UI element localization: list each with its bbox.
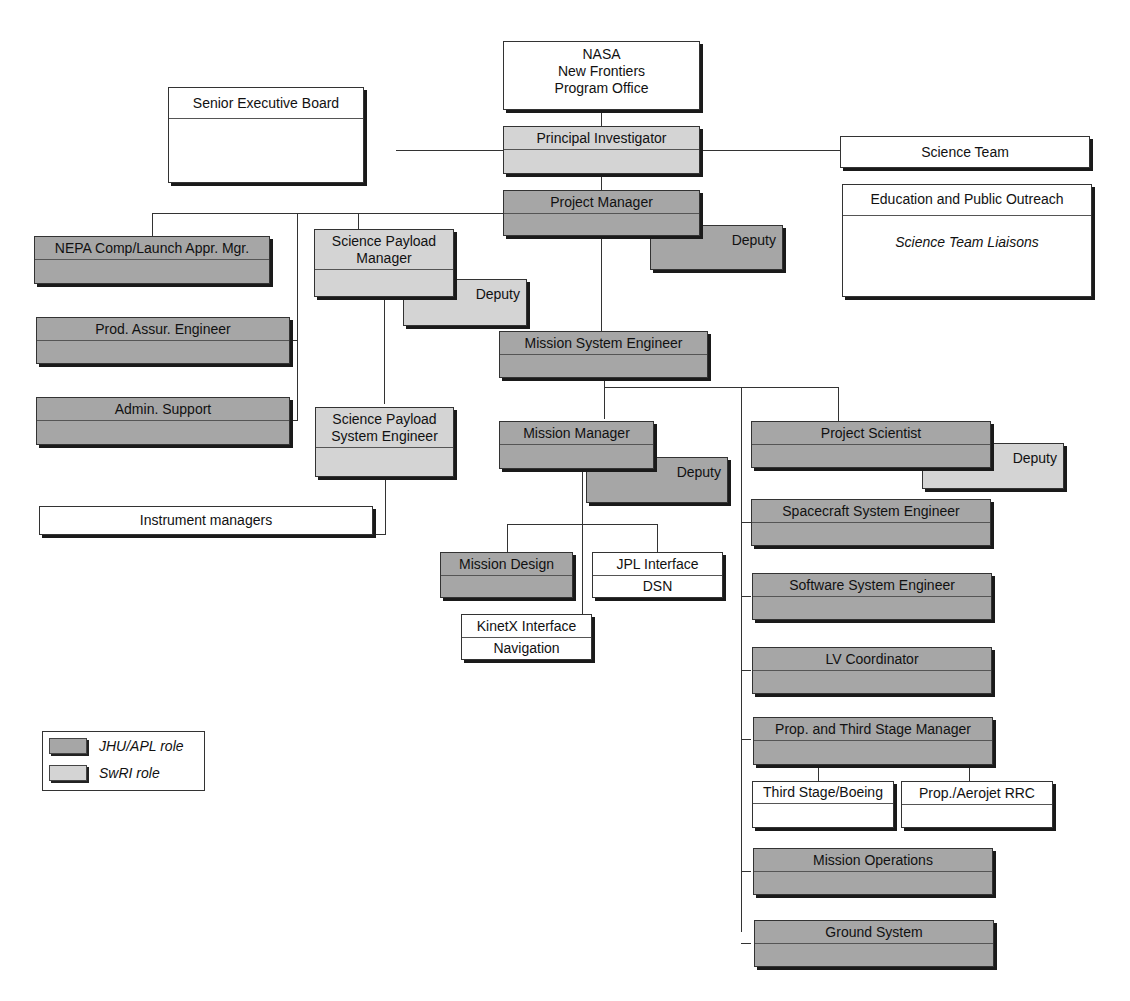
jpl-interface-label: JPL Interface: [593, 553, 722, 576]
connector-pi-pm: [601, 174, 602, 190]
connector-mops: [741, 871, 751, 872]
connector-nasa-pi: [601, 110, 602, 126]
connector-mse-down: [604, 379, 605, 419]
spse-line2: System Engineer: [320, 428, 449, 445]
connector-jpl: [657, 524, 658, 552]
third-stage-boeing-box: Third Stage/Boeing: [752, 781, 894, 828]
connector-prop: [741, 739, 751, 740]
lv-coordinator-label: LV Coordinator: [753, 648, 991, 671]
connector-md: [507, 524, 508, 552]
mission-design-box: Mission Design: [440, 552, 573, 598]
project-manager-box: Project Manager: [503, 190, 700, 236]
legend: JHU/APL role SwRI role: [42, 731, 205, 791]
ground-system-box: Ground System: [754, 920, 994, 967]
connector-instr: [373, 534, 386, 535]
prop-third-stage-manager-box: Prop. and Third Stage Manager: [753, 717, 993, 765]
mission-manager-label: Mission Manager: [500, 422, 653, 445]
connector-left-support-trunk: [297, 213, 298, 421]
science-team-box: Science Team: [840, 136, 1090, 168]
principal-investigator-box: Principal Investigator: [503, 126, 700, 174]
jpl-interface-box: JPL Interface DSN: [592, 552, 723, 598]
admin-support-label: Admin. Support: [37, 398, 289, 421]
connector-pm-mse: [601, 236, 602, 332]
mission-design-label: Mission Design: [441, 553, 572, 576]
nepa-manager-label: NEPA Comp/Launch Appr. Mgr.: [35, 237, 269, 260]
connector-spse-instr: [385, 477, 386, 535]
software-system-engineer-label: Software System Engineer: [753, 574, 991, 597]
project-scientist-deputy-label: Deputy: [1013, 450, 1057, 466]
third-stage-boeing-label: Third Stage/Boeing: [753, 782, 893, 804]
connector-admin: [290, 420, 298, 421]
prop-third-stage-manager-label: Prop. and Third Stage Manager: [754, 718, 992, 741]
connector-right-trunk: [741, 387, 742, 932]
spacecraft-system-engineer-label: Spacecraft System Engineer: [752, 500, 990, 523]
nepa-manager-box: NEPA Comp/Launch Appr. Mgr.: [34, 236, 270, 284]
spm-line1: Science Payload: [319, 233, 449, 250]
mission-system-engineer-label: Mission System Engineer: [500, 332, 707, 355]
connector-nepa: [152, 213, 153, 236]
spse-line1: Science Payload: [320, 411, 449, 428]
science-payload-manager-deputy-label: Deputy: [476, 286, 520, 302]
senior-executive-board-box: Senior Executive Board: [168, 87, 364, 183]
nasa-label: NASA: [504, 46, 699, 63]
kinetx-interface-box: KinetX Interface Navigation: [461, 614, 592, 660]
education-public-outreach-box: Education and Public Outreach Science Te…: [842, 184, 1092, 297]
mission-operations-box: Mission Operations: [753, 848, 993, 895]
prop-aerojet-label: Prop./Aerojet RRC: [902, 782, 1052, 805]
connector-gs: [741, 943, 751, 944]
project-scientist-label: Project Scientist: [752, 422, 990, 445]
connector-mm-sub-branch: [507, 524, 657, 525]
product-assurance-engineer-box: Prod. Assur. Engineer: [36, 317, 290, 364]
epo-label: Education and Public Outreach: [843, 185, 1091, 216]
legend-label-jhu-apl: JHU/APL role: [99, 738, 184, 754]
nasa-label-3: Program Office: [504, 80, 699, 97]
mission-manager-deputy-label: Deputy: [677, 464, 721, 480]
science-team-label: Science Team: [921, 144, 1009, 160]
science-payload-system-engineer-box: Science Payload System Engineer: [315, 407, 454, 477]
project-manager-label: Project Manager: [504, 191, 699, 214]
software-system-engineer-box: Software System Engineer: [752, 573, 992, 620]
spacecraft-system-engineer-box: Spacecraft System Engineer: [751, 499, 991, 546]
science-payload-manager-box: Science Payload Manager: [314, 229, 454, 297]
science-payload-manager-label: Science Payload Manager: [315, 230, 453, 270]
mission-manager-box: Mission Manager: [499, 421, 654, 469]
principal-investigator-label: Principal Investigator: [504, 127, 699, 150]
connector-pae: [290, 340, 298, 341]
instrument-managers-box: Instrument managers: [39, 506, 373, 535]
org-chart: NASA New Frontiers Program Office Senior…: [0, 0, 1130, 1001]
kinetx-interface-sublabel: Navigation: [462, 638, 591, 657]
product-assurance-engineer-label: Prod. Assur. Engineer: [37, 318, 289, 341]
prop-aerojet-box: Prop./Aerojet RRC: [901, 781, 1053, 828]
connector-mm-down: [582, 469, 583, 614]
connector-aerojet: [969, 765, 970, 781]
project-scientist-box: Project Scientist: [751, 421, 991, 468]
lv-coordinator-box: LV Coordinator: [752, 647, 992, 694]
connector-spm-spse: [384, 297, 385, 404]
mission-system-engineer-box: Mission System Engineer: [499, 331, 708, 378]
project-manager-deputy-label: Deputy: [732, 232, 776, 248]
nasa-label-2: New Frontiers: [504, 63, 699, 80]
senior-executive-board-label: Senior Executive Board: [169, 88, 363, 119]
connector-ps: [838, 387, 839, 421]
connector-sse: [741, 522, 751, 523]
mission-operations-label: Mission Operations: [754, 849, 992, 872]
connector-pm-left-branch: [152, 213, 503, 214]
admin-support-box: Admin. Support: [36, 397, 290, 445]
kinetx-interface-label: KinetX Interface: [462, 615, 591, 638]
connector-boeing: [818, 765, 819, 781]
legend-item-jhu-apl: JHU/APL role: [49, 738, 184, 754]
legend-item-swri: SwRI role: [49, 765, 160, 781]
science-payload-system-engineer-label: Science Payload System Engineer: [316, 408, 453, 448]
instrument-managers-label: Instrument managers: [140, 512, 272, 528]
connector-swse: [741, 596, 751, 597]
connector-lv: [741, 670, 751, 671]
nasa-program-office-box: NASA New Frontiers Program Office: [503, 41, 700, 110]
swri-swatch-icon: [49, 765, 87, 781]
connector-spm: [358, 213, 359, 229]
jhu-apl-swatch-icon: [49, 738, 87, 754]
ground-system-label: Ground System: [755, 921, 993, 944]
connector-mse-right-branch: [604, 387, 838, 388]
spm-line2: Manager: [319, 250, 449, 267]
legend-label-swri: SwRI role: [99, 765, 160, 781]
jpl-interface-sublabel: DSN: [593, 576, 722, 595]
